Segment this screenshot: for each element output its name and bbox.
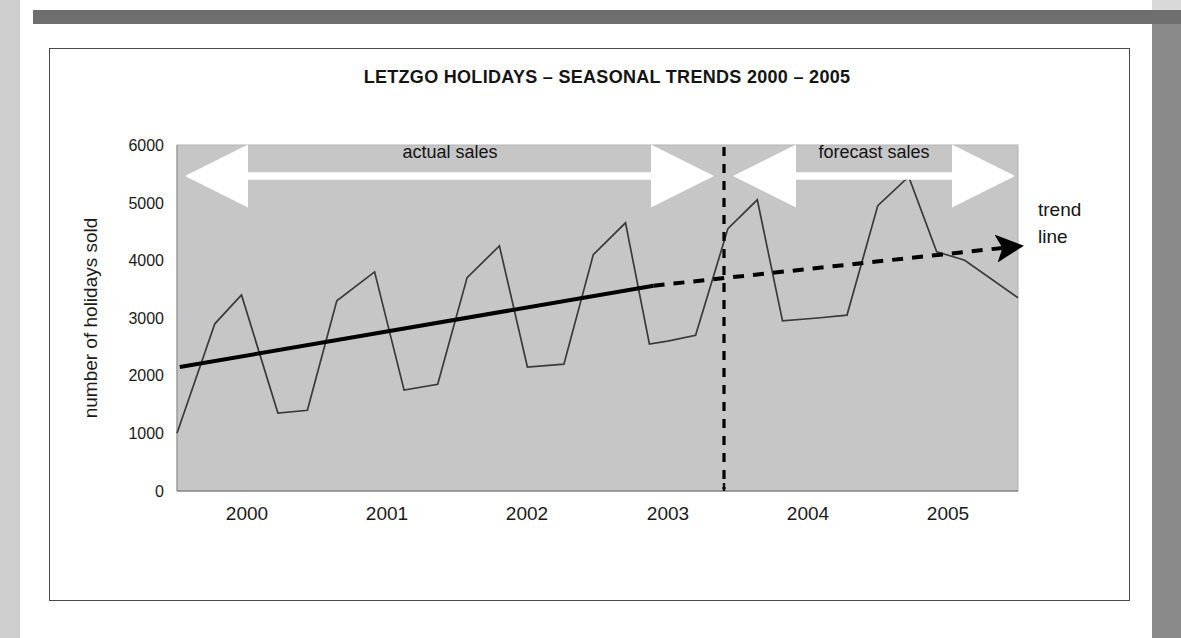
y-tick-2000: 2000 [128, 367, 164, 384]
forecast-sales-label: forecast sales [818, 142, 929, 162]
y-axis-tick-labels: 6000 5000 4000 3000 2000 1000 0 [128, 137, 164, 500]
x-tick-2002: 2002 [506, 503, 548, 524]
x-tick-2005: 2005 [927, 503, 969, 524]
y-tick-1000: 1000 [128, 425, 164, 442]
trend-line-callout-line1: trend [1038, 199, 1081, 220]
x-tick-2003: 2003 [647, 503, 689, 524]
y-tick-6000: 6000 [128, 137, 164, 154]
x-tick-2004: 2004 [787, 503, 830, 524]
y-axis-title: number of holidays sold [80, 218, 101, 419]
trend-line-callout-line2: line [1038, 226, 1068, 247]
seasonal-trends-line-chart: 6000 5000 4000 3000 2000 1000 0 number o… [0, 0, 1181, 638]
y-tick-4000: 4000 [128, 252, 164, 269]
y-tick-0: 0 [155, 483, 164, 500]
actual-sales-label: actual sales [402, 142, 497, 162]
y-tick-3000: 3000 [128, 310, 164, 327]
x-tick-2000: 2000 [226, 503, 268, 524]
x-tick-2001: 2001 [366, 503, 408, 524]
y-tick-5000: 5000 [128, 195, 164, 212]
plot-area-background [177, 145, 1018, 491]
x-axis-tick-labels: 2000 2001 2002 2003 2004 2005 [226, 503, 969, 524]
